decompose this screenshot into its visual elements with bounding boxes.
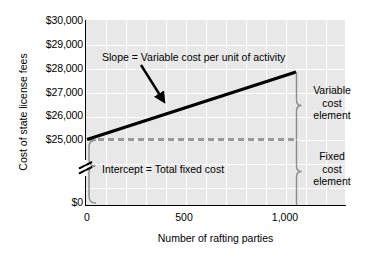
intercept-annotation-label: Intercept = Total fixed cost [102,163,224,175]
cost-behavior-chart: $30,000 $29,000 $28,000 $27,000 $26,000 … [0,0,366,263]
y-tick-label: $26,000 [1,110,83,121]
y-tick-label: $27,000 [1,87,83,98]
variable-cost-line-2: cost [303,97,361,110]
y-tick-label: $25,000 [1,134,83,145]
variable-cost-line-3: element [303,109,361,122]
x-tick-label: 500 [175,212,193,223]
variable-cost-bracket [297,72,302,140]
y-tick-label: $0 [1,197,83,208]
slope-annotation-label: Slope = Variable cost per unit of activi… [102,51,285,63]
variable-cost-line-1: Variable [303,84,361,97]
total-cost-line [87,72,296,140]
fixed-cost-line-3: element [303,175,361,188]
y-tick-label: $28,000 [1,63,83,74]
fixed-cost-line-2: cost [303,163,361,176]
y-tick-label: $30,000 [1,15,83,26]
x-axis-title: Number of rafting parties [86,232,345,244]
y-tick-label: $29,000 [1,39,83,50]
slope-annotation-arrow [141,65,161,96]
fixed-cost-element-label: Fixed cost element [303,150,361,188]
intercept-bracket [89,140,96,203]
variable-cost-element-label: Variable cost element [303,84,361,122]
fixed-cost-line-1: Fixed [303,150,361,163]
y-axis-title: Cost of state license fees [17,27,29,197]
fixed-cost-bracket [297,140,302,205]
x-tick-label: 0 [84,212,90,223]
y-axis-tick-labels: $30,000 $29,000 $28,000 $27,000 $26,000 … [0,0,83,263]
x-tick-label: 1,000 [272,212,298,223]
